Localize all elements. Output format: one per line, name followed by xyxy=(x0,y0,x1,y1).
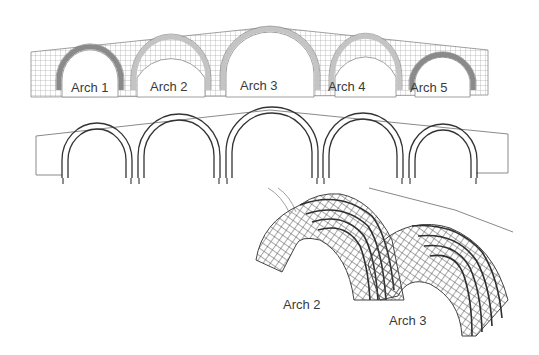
3d-label-arch-2: Arch 2 xyxy=(283,297,321,312)
3d-label-arch-3: Arch 3 xyxy=(389,313,427,328)
frame-3d-panel xyxy=(256,188,513,336)
mesh-label-arch-2: Arch 2 xyxy=(150,79,188,94)
mesh-label-arch-4: Arch 4 xyxy=(328,79,366,94)
frame-panel xyxy=(36,107,508,184)
mesh-label-arch-1: Arch 1 xyxy=(71,80,109,95)
mesh-label-arch-5: Arch 5 xyxy=(410,80,448,95)
bridge-figure xyxy=(0,0,539,355)
mesh-label-arch-3: Arch 3 xyxy=(240,78,278,93)
